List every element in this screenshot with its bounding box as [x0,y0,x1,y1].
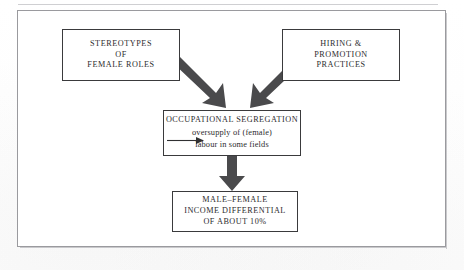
node-occupational-heading: OCCUPATIONAL SEGREGATION [166,115,298,126]
node-male-female-income-differential: MALE–FEMALE INCOME DIFFERENTIAL OF ABOUT… [172,191,298,232]
node-hiring-line-3: PRACTICES [316,60,365,71]
node-occupational-segregation: OCCUPATIONAL SEGREGATION oversupply of (… [163,110,301,156]
node-stereotypes-of-female-roles: STEREOTYPES OF FEMALE ROLES [62,29,180,81]
node-income-line-1: MALE–FEMALE [202,195,268,206]
node-occupational-sub-line-2: labour in some fields [195,139,269,151]
node-stereotypes-line-3: FEMALE ROLES [87,60,154,71]
arrow-occupational-to-income [218,155,246,192]
node-stereotypes-line-1: STEREOTYPES [90,39,152,50]
node-hiring-and-promotion-practices: HIRING & PROMOTION PRACTICES [282,29,400,81]
frame-shadow-right [446,13,447,249]
scan-artifact-line [18,4,438,5]
frame-shadow-bottom [20,247,447,248]
node-hiring-line-1: HIRING & [320,39,361,50]
node-income-line-2: INCOME DIFFERENTIAL [184,206,286,217]
scanned-diagram-page: STEREOTYPES OF FEMALE ROLES HIRING & PRO… [0,0,464,270]
node-income-line-3: OF ABOUT 10% [203,217,266,228]
node-hiring-line-2: PROMOTION [314,50,368,61]
arrow-segregation-causes-oversupply [167,136,205,145]
node-stereotypes-line-2: OF [115,50,127,61]
